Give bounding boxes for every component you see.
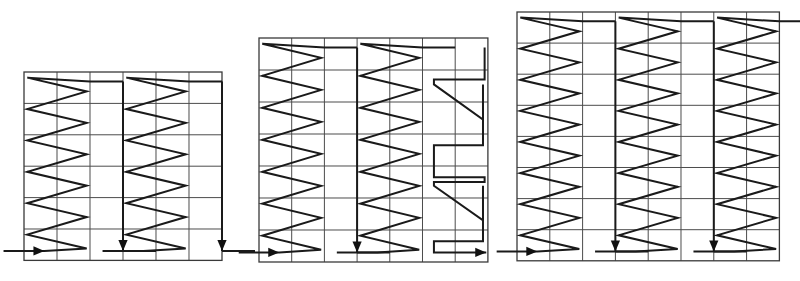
zigzag-polyline [337, 44, 455, 253]
return-arrow-icon [352, 241, 361, 252]
panel-left [10, 58, 236, 274]
panel-middle [245, 24, 502, 276]
panel-left-canvas [10, 58, 236, 274]
return-arrow-icon [709, 240, 718, 251]
z-step-polyline [434, 48, 486, 253]
entry-arrow-icon [526, 247, 537, 256]
exit-arrow-icon [475, 248, 486, 257]
panel-right-band-2 [595, 18, 714, 252]
panel-middle-band-3 [434, 48, 486, 257]
panel-right [503, 0, 793, 275]
zigzag-polyline [239, 44, 357, 253]
panel-middle-scan-path [239, 44, 487, 257]
zigzag-polyline [595, 18, 714, 252]
panel-middle-content [239, 38, 488, 262]
panel-right-canvas [503, 0, 793, 275]
panel-right-grid [517, 12, 779, 261]
entry-arrow-icon [268, 248, 279, 257]
return-arrow-icon [611, 240, 620, 251]
scan-pattern-figure [0, 0, 800, 281]
return-arrow-icon [217, 240, 226, 251]
panel-right-content [497, 12, 800, 261]
return-arrow-icon [118, 240, 127, 251]
panel-middle-band-1 [239, 44, 357, 257]
panel-middle-band-2 [337, 44, 455, 253]
zigzag-polyline [497, 18, 616, 252]
entry-arrow-icon [33, 246, 44, 255]
panel-middle-canvas [245, 24, 502, 276]
panel-left-content [4, 72, 255, 260]
